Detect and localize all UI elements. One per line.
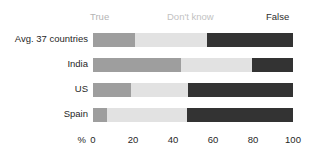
chart-row: Avg. 37 countries [0,30,312,55]
x-axis-tick-label: 40 [162,134,184,146]
x-axis-tick-label: 100 [282,134,304,146]
x-axis-tick-label: 60 [202,134,224,146]
bar-segment-false [187,108,293,122]
bar-segment-true [93,33,135,47]
stacked-bar [93,83,293,97]
row-label: Avg. 37 countries [0,33,88,45]
x-axis: % 020406080100 [0,133,312,151]
bar-segment-true [93,108,107,122]
legend-item-false: False [266,11,289,23]
x-axis-tick-label: 20 [122,134,144,146]
bar-segment-true [93,58,181,72]
stacked-bar-chart: True Don't know False Avg. 37 countriesI… [0,0,312,164]
chart-legend: True Don't know False [0,11,312,27]
chart-row: Spain [0,105,312,130]
chart-row: US [0,80,312,105]
bar-segment-false [252,58,293,72]
chart-row: India [0,55,312,80]
x-axis-tick-label: 0 [82,134,104,146]
legend-item-dont-know: Don't know [167,11,214,23]
bar-segment-dont-know [135,33,207,47]
row-label: India [0,58,88,70]
stacked-bar [93,58,293,72]
stacked-bar [93,108,293,122]
stacked-bar [93,33,293,47]
x-axis-tick-label: 80 [242,134,264,146]
row-label: Spain [0,108,88,120]
legend-item-true: True [90,11,109,23]
bar-segment-dont-know [107,108,187,122]
row-label: US [0,83,88,95]
chart-rows: Avg. 37 countriesIndiaUSSpain [0,30,312,130]
bar-segment-false [207,33,293,47]
bar-segment-dont-know [131,83,188,97]
bar-segment-true [93,83,131,97]
bar-segment-false [188,83,293,97]
bar-segment-dont-know [181,58,252,72]
